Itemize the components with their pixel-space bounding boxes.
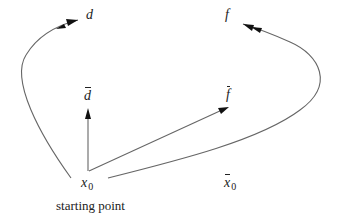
label-d-bar: d <box>84 89 91 103</box>
curve-x0-to-d <box>22 19 78 178</box>
caption-starting-point: starting point <box>56 199 125 212</box>
label-f: f <box>225 8 229 22</box>
label-f-bar: f <box>226 88 230 102</box>
arrow-x0-to-d-bar <box>85 108 91 171</box>
label-x-bar0: x0 <box>224 176 236 190</box>
label-x0: x0 <box>81 176 93 190</box>
diagram-canvas <box>0 0 337 221</box>
curve-xbar0-to-f <box>108 24 320 178</box>
arrow-x0-to-f-bar <box>89 107 229 171</box>
label-d: d <box>86 8 93 22</box>
arrowhead-icon <box>85 108 91 119</box>
arrowhead-icon <box>218 107 229 114</box>
arrowhead-icon <box>66 19 78 26</box>
arrowhead-icon <box>251 27 262 33</box>
